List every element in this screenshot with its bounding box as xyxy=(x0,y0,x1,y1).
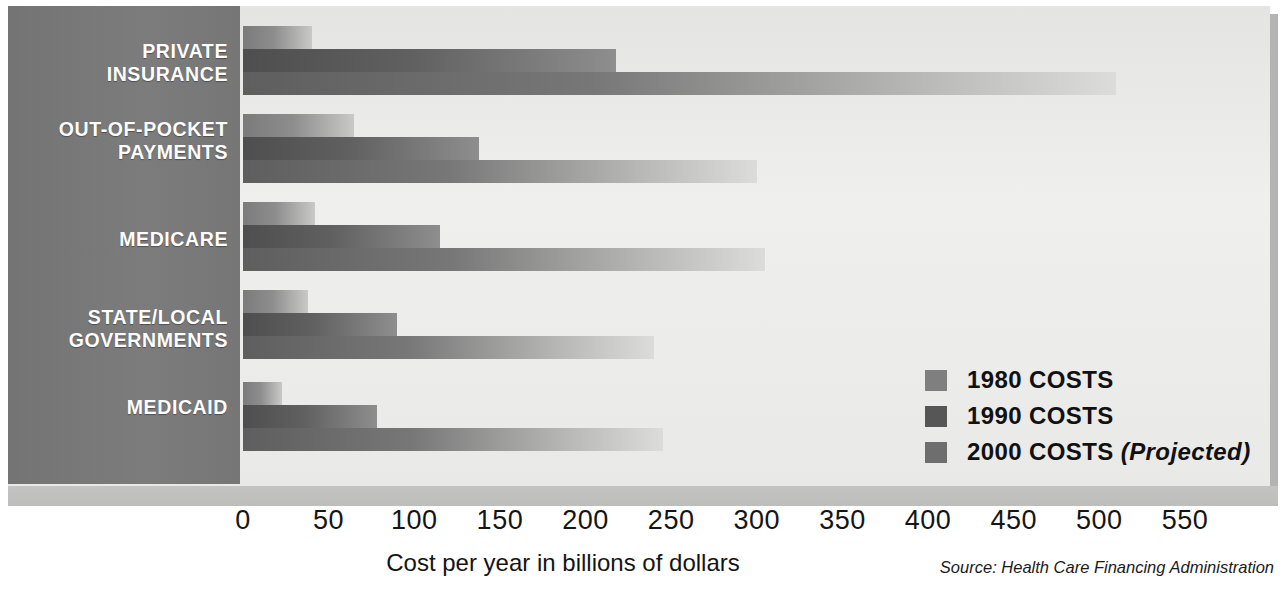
category-label: MEDICARE xyxy=(14,228,228,251)
x-axis-tick-labels: 050100150200250300350400450500550 xyxy=(0,505,1286,545)
legend-swatch-icon xyxy=(925,370,947,391)
x-tick-label: 550 xyxy=(1162,505,1209,536)
legend-item[interactable]: 1980 COSTS xyxy=(925,362,1251,398)
legend-item[interactable]: 1990 COSTS xyxy=(925,398,1251,434)
category-label-line: OUT-OF-POCKET xyxy=(14,118,228,141)
source-note: Source: Health Care Financing Administra… xyxy=(940,558,1274,577)
category-label-line: PRIVATE xyxy=(14,40,228,63)
bar-group xyxy=(243,382,244,451)
bar xyxy=(243,72,1116,95)
legend: 1980 COSTS1990 COSTS2000 COSTS (Projecte… xyxy=(925,362,1251,470)
x-axis-band xyxy=(8,486,1278,506)
legend-swatch-icon xyxy=(925,406,947,427)
category-label: MEDICAID xyxy=(14,396,228,419)
legend-swatch-icon xyxy=(925,442,947,463)
x-tick-label: 250 xyxy=(648,505,695,536)
bar xyxy=(243,428,663,451)
bar xyxy=(243,49,616,72)
bar xyxy=(243,225,440,248)
bar xyxy=(243,137,479,160)
category-label: PRIVATEINSURANCE xyxy=(14,40,228,86)
legend-label: 1980 COSTS xyxy=(967,366,1114,394)
x-tick-label: 0 xyxy=(235,505,251,536)
bar xyxy=(243,290,308,313)
category-label-line: PAYMENTS xyxy=(14,141,228,164)
bar-group xyxy=(243,202,244,271)
category-label-line: MEDICARE xyxy=(14,228,228,251)
x-tick-label: 200 xyxy=(562,505,609,536)
x-tick-label: 100 xyxy=(391,505,438,536)
bar-group xyxy=(243,114,244,183)
x-tick-label: 300 xyxy=(734,505,781,536)
x-axis-title: Cost per year in billions of dollars xyxy=(243,549,883,577)
x-tick-label: 150 xyxy=(477,505,524,536)
bar xyxy=(243,405,377,428)
bar xyxy=(243,313,397,336)
x-tick-label: 50 xyxy=(313,505,344,536)
x-tick-label: 450 xyxy=(990,505,1037,536)
bar-group xyxy=(243,290,244,359)
x-tick-label: 350 xyxy=(819,505,866,536)
bar xyxy=(243,336,654,359)
x-tick-label: 500 xyxy=(1076,505,1123,536)
bar xyxy=(243,160,757,183)
category-sidebar: PRIVATEINSURANCEOUT-OF-POCKETPAYMENTSMED… xyxy=(8,6,240,484)
legend-label: 2000 COSTS (Projected) xyxy=(967,438,1251,466)
chart-root: PRIVATEINSURANCEOUT-OF-POCKETPAYMENTSMED… xyxy=(0,0,1286,591)
category-label-line: INSURANCE xyxy=(14,63,228,86)
x-tick-label: 400 xyxy=(905,505,952,536)
category-label-line: STATE/LOCAL xyxy=(14,306,228,329)
category-label-line: MEDICAID xyxy=(14,396,228,419)
bar xyxy=(243,382,282,405)
legend-label-suffix: (Projected) xyxy=(1114,438,1251,465)
category-label: OUT-OF-POCKETPAYMENTS xyxy=(14,118,228,164)
category-label: STATE/LOCALGOVERNMENTS xyxy=(14,306,228,352)
bar xyxy=(243,26,312,49)
bar xyxy=(243,248,765,271)
bar xyxy=(243,202,315,225)
bar xyxy=(243,114,354,137)
bar-group xyxy=(243,26,244,95)
legend-item[interactable]: 2000 COSTS (Projected) xyxy=(925,434,1251,470)
legend-label: 1990 COSTS xyxy=(967,402,1114,430)
category-label-line: GOVERNMENTS xyxy=(14,329,228,352)
